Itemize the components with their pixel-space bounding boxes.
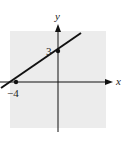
y-intercept-label: 3 [46, 45, 52, 57]
x-axis-arrow-icon [105, 79, 113, 85]
point-y-intercept [56, 49, 60, 53]
coordinate-graph: x y 3 −4 [0, 0, 124, 146]
y-axis-label: y [54, 10, 60, 22]
x-intercept-label: −4 [7, 87, 19, 99]
point-x-intercept [14, 80, 18, 84]
y-axis-arrow-icon [55, 24, 61, 32]
x-axis-label: x [115, 75, 121, 87]
